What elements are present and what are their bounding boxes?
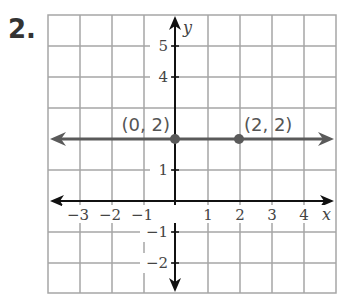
coordinate-plane: 5 4 1 −1 −2 −3 −2 −1 1 2 3 4 x y (0, 2) … — [0, 0, 348, 301]
x-tick-label-neg2: −2 — [99, 206, 121, 224]
point-2-2 — [234, 134, 244, 144]
point-0-2 — [170, 134, 180, 144]
x-tick-label-neg3: −3 — [67, 206, 89, 224]
x-tick-label-3: 3 — [267, 206, 277, 224]
x-axis-label: x — [322, 205, 331, 224]
y-tick-label-5: 5 — [158, 37, 168, 55]
y-tick-label-neg2: −2 — [146, 254, 168, 272]
point-label-2-2: (2, 2) — [244, 114, 292, 135]
x-tick-label-1: 1 — [203, 206, 213, 224]
y-tick-label-neg1: −1 — [146, 223, 168, 241]
grid — [48, 15, 336, 293]
y-axis-label: y — [182, 18, 193, 37]
point-label-0-2: (0, 2) — [122, 114, 170, 135]
x-tick-label-neg1: −1 — [131, 206, 153, 224]
y-tick-label-4: 4 — [158, 68, 168, 86]
grid-border — [48, 15, 336, 293]
y-tick-label-1: 1 — [158, 161, 168, 179]
x-tick-label-2: 2 — [235, 206, 245, 224]
x-tick-label-4: 4 — [299, 206, 309, 224]
